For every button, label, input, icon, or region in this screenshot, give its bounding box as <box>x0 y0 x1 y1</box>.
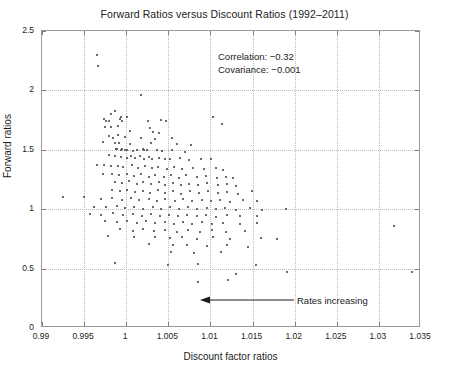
data-point <box>112 212 114 214</box>
data-point <box>201 199 203 201</box>
data-point <box>149 127 151 129</box>
data-point <box>215 167 217 169</box>
data-point <box>256 200 258 202</box>
x-axis-tick <box>42 322 43 326</box>
data-point <box>104 126 106 128</box>
data-point <box>191 200 193 202</box>
y-axis-tick <box>42 31 46 32</box>
rates-increasing-annotation: Rates increasing <box>199 293 389 311</box>
data-point <box>285 208 287 210</box>
data-point <box>226 191 228 193</box>
x-tick-label: 1.02 <box>285 331 302 341</box>
left-arrow-icon <box>199 293 295 307</box>
data-point <box>132 230 134 232</box>
data-point <box>140 173 142 175</box>
x-axis-tick <box>210 322 211 326</box>
data-point <box>237 193 239 195</box>
x-axis-tick-top <box>210 31 211 35</box>
data-point <box>133 236 135 238</box>
data-point <box>244 230 246 232</box>
data-point <box>249 207 251 209</box>
data-point <box>187 229 189 231</box>
y-axis-tick <box>42 269 46 270</box>
data-point <box>141 215 143 217</box>
x-axis-tick-top <box>84 31 85 35</box>
data-point <box>131 164 133 166</box>
data-point <box>178 177 180 179</box>
data-point <box>184 151 186 153</box>
x-axis-tick <box>379 322 380 326</box>
data-point <box>130 197 132 199</box>
data-point <box>227 279 229 281</box>
x-tick-label: 1.025 <box>325 331 346 341</box>
y-axis-tick-right <box>415 150 419 151</box>
data-point <box>411 271 413 273</box>
data-point <box>112 137 114 139</box>
data-point <box>393 225 395 227</box>
x-axis-tick-top <box>337 31 338 35</box>
data-point <box>136 222 138 224</box>
data-point <box>182 221 184 223</box>
x-tick-label: 1.01 <box>201 331 218 341</box>
data-point <box>239 215 241 217</box>
data-point <box>126 116 128 118</box>
data-point <box>201 221 203 223</box>
y-axis-tick-right <box>415 209 419 210</box>
gridline-vertical <box>168 31 169 326</box>
data-point <box>117 125 119 127</box>
x-axis-tick <box>84 322 85 326</box>
data-point <box>117 134 119 136</box>
gridline-vertical <box>210 31 211 326</box>
x-tick-label: 0.99 <box>33 331 50 341</box>
data-point <box>96 164 98 166</box>
data-point <box>134 191 136 193</box>
data-point <box>105 206 107 208</box>
data-point <box>110 113 112 115</box>
data-point <box>168 214 170 216</box>
data-point <box>211 223 213 225</box>
data-point <box>89 213 91 215</box>
data-point <box>225 231 227 233</box>
gridline-vertical <box>337 31 338 326</box>
data-point <box>147 120 149 122</box>
x-tick-label: 1.015 <box>241 331 262 341</box>
figure-canvas: Forward Ratios versus Discount Ratios (1… <box>0 0 449 373</box>
data-point <box>255 264 257 266</box>
data-point <box>176 143 178 145</box>
data-point <box>163 176 165 178</box>
data-point <box>196 176 198 178</box>
x-tick-label: 0.995 <box>72 331 93 341</box>
data-point <box>200 158 202 160</box>
data-point <box>102 141 104 143</box>
data-point <box>121 199 123 201</box>
gridline-horizontal <box>42 269 419 270</box>
x-axis-tick <box>295 322 296 326</box>
data-point <box>188 159 190 161</box>
data-point <box>134 157 136 159</box>
data-point <box>190 144 192 146</box>
data-point <box>114 181 116 183</box>
data-point <box>199 231 201 233</box>
data-point <box>154 222 156 224</box>
data-point <box>150 183 152 185</box>
data-point <box>181 236 183 238</box>
data-point <box>173 166 175 168</box>
data-point <box>100 214 102 216</box>
gridline-vertical <box>379 31 380 326</box>
data-point <box>136 183 138 185</box>
x-axis-tick-top <box>168 31 169 35</box>
rates-increasing-label: Rates increasing <box>297 295 368 306</box>
data-point <box>239 223 241 225</box>
data-point <box>164 184 166 186</box>
data-point <box>242 199 244 201</box>
data-point <box>100 198 102 200</box>
data-point <box>121 182 123 184</box>
data-point <box>140 137 142 139</box>
data-point <box>174 200 176 202</box>
data-point <box>276 238 278 240</box>
data-point <box>148 243 150 245</box>
data-point <box>225 176 227 178</box>
correlation-text: Correlation: −0.32 <box>218 50 301 63</box>
data-point <box>129 143 131 145</box>
data-point <box>110 165 112 167</box>
